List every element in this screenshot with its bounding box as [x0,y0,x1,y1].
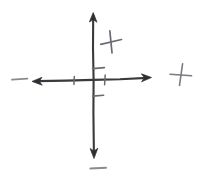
tick-y-positive [93,68,105,69]
tick-y-negative [93,95,104,96]
coordinate-axes-sketch [0,0,200,177]
diagram-canvas: Hand-drawn Cartesian coordinate axes + +… [0,0,200,177]
minus-left-outer-icon [12,79,27,80]
minus-bottom-outer-icon [90,168,106,169]
minus-left-stroke [12,79,27,80]
tick-x-positive [105,75,106,85]
minus-bottom-stroke [90,168,106,169]
vertical-axis-line [93,16,94,154]
paper-background [0,0,200,177]
